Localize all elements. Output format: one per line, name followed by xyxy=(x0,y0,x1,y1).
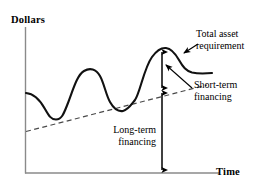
annotation-total-asset-requirement: Total asset requirement xyxy=(196,28,244,51)
annotation-short-term-financing: Short-term financing xyxy=(194,79,237,102)
annotation-total-asset-line1: Total asset xyxy=(196,28,244,40)
total-asset-requirement-curve xyxy=(26,48,212,120)
annotation-long-term-line2: financing xyxy=(104,136,156,148)
annotation-short-term-line1: Short-term xyxy=(194,79,237,91)
x-axis-label: Time xyxy=(216,166,240,177)
short-term-leader-line xyxy=(166,65,192,88)
annotation-long-term-financing: Long-term financing xyxy=(104,124,156,147)
financing-strategy-chart: Dollars Time Total asset requirement Sho… xyxy=(0,0,267,190)
annotation-long-term-line1: Long-term xyxy=(104,124,156,136)
annotation-total-asset-line2: requirement xyxy=(196,40,244,52)
annotation-short-term-line2: financing xyxy=(194,91,237,103)
y-axis-label: Dollars xyxy=(11,14,45,25)
